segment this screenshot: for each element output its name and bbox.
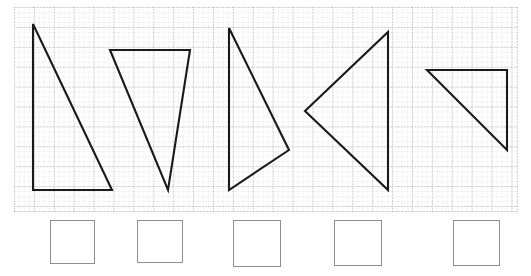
worksheet-page <box>0 0 531 276</box>
triangle-3 <box>229 28 289 190</box>
answer-box-5[interactable] <box>453 220 500 266</box>
triangle-1 <box>33 24 112 190</box>
triangles-layer <box>14 7 518 212</box>
answer-box-1[interactable] <box>50 220 95 264</box>
answer-boxes-row <box>0 219 531 269</box>
triangle-2 <box>110 50 190 190</box>
answer-box-2[interactable] <box>137 220 183 263</box>
triangle-5 <box>427 70 507 150</box>
triangle-4 <box>305 32 388 190</box>
answer-box-3[interactable] <box>233 220 281 267</box>
grid-area <box>14 7 518 212</box>
answer-box-4[interactable] <box>334 220 382 266</box>
